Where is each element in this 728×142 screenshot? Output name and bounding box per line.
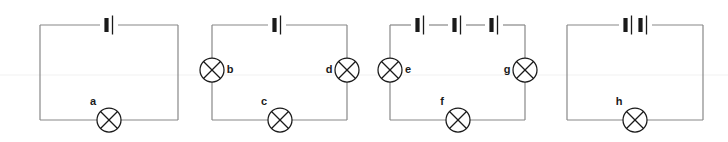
circuit-diagram-figure: abcdefgh bbox=[0, 0, 728, 142]
lamp-label-a: a bbox=[90, 95, 97, 107]
lamp-label-f: f bbox=[440, 95, 444, 107]
lamp-label-h: h bbox=[616, 95, 623, 107]
lamp-label-e: e bbox=[405, 63, 411, 75]
lamp-label-c: c bbox=[261, 95, 267, 107]
lamp-label-g: g bbox=[504, 63, 511, 75]
circuit-diagram-canvas: abcdefgh bbox=[0, 0, 728, 142]
lamp-label-d: d bbox=[326, 63, 333, 75]
lamp-label-b: b bbox=[227, 63, 234, 75]
